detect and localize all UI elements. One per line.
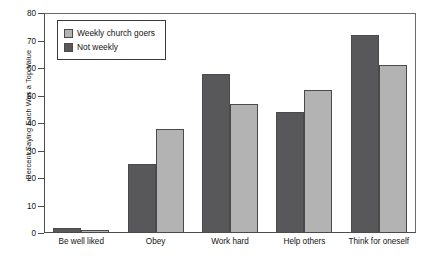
legend-item-not-weekly: Not weekly	[64, 40, 155, 54]
bar-group	[342, 13, 416, 233]
bar-chart: Percent Saying Each Was a Top Value 0102…	[0, 0, 440, 264]
legend-item-label: Weekly church goers	[77, 28, 155, 38]
bar	[202, 74, 230, 234]
bar	[379, 65, 407, 233]
chart-legend: Weekly church goers Not weekly	[57, 20, 166, 60]
bar	[156, 129, 184, 234]
y-axis-tick-label: 60	[10, 64, 36, 73]
bar	[81, 230, 109, 233]
bar	[351, 35, 379, 233]
y-axis-tick-label: 0	[10, 229, 36, 238]
bar	[128, 164, 156, 233]
y-axis-tick-label: 30	[10, 146, 36, 155]
x-axis-label: Be well liked	[44, 237, 118, 246]
bar	[276, 112, 304, 233]
bar	[230, 104, 258, 233]
y-axis-tick-label: 10	[10, 201, 36, 210]
y-axis-tick	[38, 233, 44, 234]
legend-item-label: Not weekly	[77, 42, 118, 52]
y-axis-tick-label: 20	[10, 174, 36, 183]
x-axis-label: Work hard	[193, 237, 267, 246]
x-axis-label: Think for oneself	[342, 237, 416, 246]
bar	[53, 228, 81, 234]
legend-swatch-icon	[64, 29, 73, 38]
legend-item-weekly-church-goers: Weekly church goers	[64, 26, 155, 40]
x-axis-label: Help others	[267, 237, 341, 246]
bar	[304, 90, 332, 233]
bar-group	[193, 13, 267, 233]
y-axis-tick-label: 40	[10, 119, 36, 128]
x-axis-labels: Be well likedObeyWork hardHelp othersThi…	[44, 237, 416, 246]
y-axis-tick-label: 80	[10, 9, 36, 18]
x-axis-label: Obey	[118, 237, 192, 246]
bar-group	[267, 13, 341, 233]
legend-swatch-icon	[64, 43, 73, 52]
y-axis-tick-label: 70	[10, 36, 36, 45]
y-axis-tick-label: 50	[10, 91, 36, 100]
